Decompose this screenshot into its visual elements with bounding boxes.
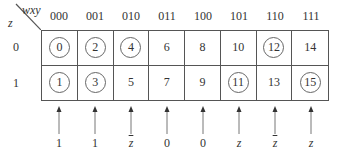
kmap-cell: 2 [78,31,114,66]
kmap-cell: 13 [257,66,293,101]
kmap-cell: 15 [292,66,328,101]
column-header: 100 [185,9,221,24]
up-arrow-icon [234,106,244,134]
column-function-label: z [113,136,149,151]
up-arrow-icon [270,106,280,134]
kmap-cell: 5 [114,66,150,101]
up-arrow-icon [198,106,208,134]
column-header: 001 [77,9,113,24]
kmap-cell: 14 [292,31,328,66]
function-value: 0 [200,136,206,150]
circled-minterm: 12 [263,37,284,58]
up-arrow-icon [90,106,100,134]
circled-minterm: 0 [49,37,70,58]
column-header: 011 [149,9,185,24]
circled-minterm: 11 [228,72,249,93]
column-header: 000 [41,9,77,24]
circled-minterm: 15 [300,72,321,93]
kmap-cell: 6 [149,31,185,66]
row-header: 0 [6,40,26,55]
kmap-cell: 8 [185,31,221,66]
function-value: 1 [56,136,62,150]
minterm-number: 10 [232,40,244,55]
minterm-number: 8 [199,40,205,55]
up-arrow-icon [54,106,64,134]
column-function-label: 1 [77,136,113,151]
up-arrow-icon [126,106,136,134]
column-function-label: z [293,136,329,151]
column-variables-label: wxy [22,3,41,18]
up-arrow-icon [162,106,172,134]
circled-minterm: 1 [49,72,70,93]
column-function-label: z [257,136,293,151]
kmap-cell: 1 [42,66,78,101]
circled-minterm: 4 [120,37,141,58]
kmap-cell: 10 [221,31,257,66]
column-header: 111 [293,9,329,24]
up-arrow-icon [306,106,316,134]
kmap-cell: 9 [185,66,221,101]
function-value: 0 [164,136,170,150]
column-function-label: 1 [41,136,77,151]
function-value: z [309,136,314,150]
minterm-number: 13 [268,75,280,90]
function-value: 1 [92,136,98,150]
minterm-number: 7 [164,75,170,90]
column-function-label: 0 [185,136,221,151]
row-variable-label: z [8,16,13,31]
column-header: 010 [113,9,149,24]
column-function-label: z [221,136,257,151]
kmap-corner: wxy z [0,0,41,30]
kmap-cell: 11 [221,66,257,101]
row-header: 1 [6,76,26,91]
kmap-cell: 7 [149,66,185,101]
column-header: 110 [257,9,293,24]
column-header: 101 [221,9,257,24]
function-value: z [237,136,242,150]
kmap-cell: 3 [78,66,114,101]
function-value: z [273,136,278,150]
minterm-number: 5 [128,75,134,90]
karnaugh-map-grid: 0246810121413579111315 [41,30,329,101]
minterm-number: 14 [304,40,316,55]
kmap-cell: 0 [42,31,78,66]
column-function-label: 0 [149,136,185,151]
kmap-cell: 4 [114,31,150,66]
minterm-number: 6 [164,40,170,55]
circled-minterm: 2 [85,37,106,58]
minterm-number: 9 [199,75,205,90]
function-value: z [129,136,134,150]
kmap-cell: 12 [257,31,293,66]
circled-minterm: 3 [85,72,106,93]
